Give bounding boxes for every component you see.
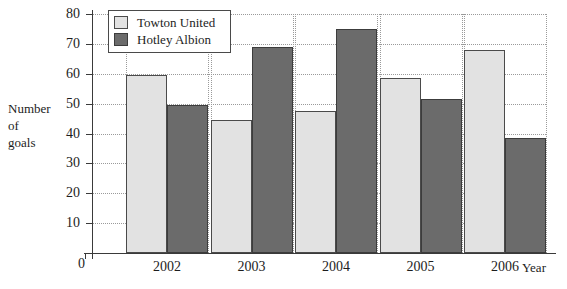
origin-label: 0 <box>78 256 85 272</box>
bar-2003-hotley-albion <box>252 47 293 253</box>
y-tick-label-80: 80 <box>46 7 80 21</box>
y-tick-10 <box>86 223 93 224</box>
x-tick-label-2003: 2003 <box>238 259 266 275</box>
gridline-x-2004-end <box>377 14 378 253</box>
y-tick-70 <box>86 44 93 45</box>
x-tick-origin <box>85 253 86 259</box>
x-axis-title: Year <box>522 260 546 276</box>
bar-2002-towton-united <box>126 75 167 253</box>
y-tick-50 <box>86 104 93 105</box>
bar-2006-towton-united <box>464 50 505 253</box>
x-axis-line <box>84 253 556 254</box>
y-tick-60 <box>86 74 93 75</box>
bar-2005-towton-united <box>380 78 421 253</box>
gridline-x-2005-end <box>462 14 463 253</box>
bar-2002-hotley-albion <box>167 105 208 253</box>
bar-2006-hotley-albion <box>505 138 546 253</box>
legend-swatch-icon-hotley-albion <box>114 33 128 46</box>
y-tick-80 <box>86 14 93 15</box>
legend-swatch-icon-towton-united <box>114 16 128 29</box>
y-tick-label-70: 70 <box>46 37 80 51</box>
bar-chart: Number of goals 1020304050607080 0 20022… <box>0 0 567 289</box>
y-tick-label-30: 30 <box>46 156 80 170</box>
gridline-x-2006-end <box>546 14 547 253</box>
legend-label-towton-united: Towton United <box>137 15 215 30</box>
x-tick-label-2006: 2006 <box>491 259 519 275</box>
bar-2005-hotley-albion <box>421 99 462 253</box>
legend-item-towton-united: Towton United <box>114 14 225 31</box>
x-tick-label-2002: 2002 <box>153 259 181 275</box>
bar-2004-hotley-albion <box>336 29 377 253</box>
y-tick-40 <box>86 134 93 135</box>
bar-2004-towton-united <box>295 111 336 253</box>
x-tick-label-2005: 2005 <box>407 259 435 275</box>
legend: Towton United Hotley Albion <box>108 10 231 53</box>
y-tick-label-50: 50 <box>46 97 80 111</box>
y-tick-label-40: 40 <box>46 127 80 141</box>
y-tick-label-20: 20 <box>46 186 80 200</box>
legend-label-hotley-albion: Hotley Albion <box>137 32 211 47</box>
y-tick-30 <box>86 163 93 164</box>
bar-2003-towton-united <box>211 120 252 253</box>
legend-item-hotley-albion: Hotley Albion <box>114 31 225 48</box>
x-tick-label-2004: 2004 <box>322 259 350 275</box>
gridline-x-2003-end <box>293 14 294 253</box>
y-tick-label-10: 10 <box>46 216 80 230</box>
y-tick-20 <box>86 193 93 194</box>
y-tick-label-60: 60 <box>46 67 80 81</box>
